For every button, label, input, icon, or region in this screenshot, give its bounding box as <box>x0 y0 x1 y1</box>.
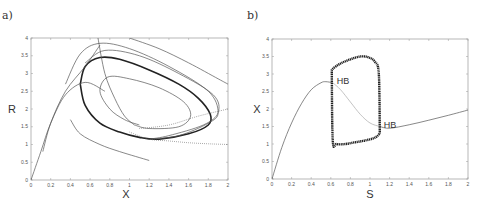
panel-b-axes: 00.20.40.60.811.21.41.61.8200.511.522.53… <box>262 36 470 187</box>
x-tick-label: 1.2 <box>146 182 153 188</box>
x-tick-label: 1.8 <box>445 181 452 187</box>
y-tick-label: 3 <box>266 71 269 77</box>
y-tick-label: 0.5 <box>21 159 28 165</box>
y-tick-label: 4 <box>266 36 269 42</box>
y-tick-label: 1 <box>25 141 28 147</box>
x-tick-label: 1.4 <box>406 181 413 187</box>
hb-annotation: HB <box>337 76 350 86</box>
x-tick-label: 0.4 <box>67 182 74 188</box>
plot-frame <box>272 39 468 179</box>
x-tick-label: 0.2 <box>288 181 295 187</box>
series-line <box>333 83 380 127</box>
y-tick-label: 1.5 <box>262 123 269 129</box>
hb-annotation: HB <box>384 120 397 130</box>
y-tick-label: 1.5 <box>21 123 28 129</box>
panel-a-xlabel: X <box>122 188 130 200</box>
panel-b-ylabel: X <box>253 103 261 115</box>
series-line <box>130 38 229 84</box>
x-tick-label: 0.8 <box>106 182 113 188</box>
y-tick-label: 3.5 <box>21 52 28 58</box>
panel-a-label: a) <box>2 9 13 22</box>
x-tick-label: 0.6 <box>87 182 94 188</box>
series-line <box>31 82 105 180</box>
x-tick-label: 0.4 <box>308 181 315 187</box>
y-tick-label: 0.5 <box>262 158 269 164</box>
y-tick-label: 0 <box>266 176 269 182</box>
series-line <box>80 57 211 139</box>
x-tick-label: 1.6 <box>425 181 432 187</box>
x-tick-label: 1 <box>369 181 372 187</box>
series-line <box>332 56 380 133</box>
y-tick-label: 3.5 <box>262 53 269 59</box>
y-tick-label: 2 <box>25 106 28 112</box>
x-tick-label: 0.2 <box>47 182 54 188</box>
y-tick-label: 4 <box>25 35 28 41</box>
series-line <box>139 109 228 129</box>
y-tick-label: 1 <box>266 141 269 147</box>
x-tick-label: 0.6 <box>327 181 334 187</box>
series-line <box>272 82 333 179</box>
panel-a-ylabel: R <box>8 103 16 115</box>
series-line <box>65 43 218 139</box>
plot-frame <box>31 38 228 180</box>
x-tick-label: 2 <box>227 182 230 188</box>
x-tick-label: 2 <box>467 181 470 187</box>
x-tick-label: 1.4 <box>165 182 172 188</box>
y-tick-label: 2 <box>266 106 269 112</box>
y-tick-label: 2.5 <box>21 88 28 94</box>
x-tick-label: 0 <box>271 181 274 187</box>
x-tick-label: 0.8 <box>347 181 354 187</box>
panel-b-label: b) <box>247 9 258 22</box>
panel-b-xlabel: S <box>366 188 373 200</box>
y-tick-label: 3 <box>25 70 28 76</box>
x-tick-label: 1.2 <box>386 181 393 187</box>
x-tick-label: 0 <box>30 182 33 188</box>
x-tick-label: 1.6 <box>185 182 192 188</box>
panel-a-axes: 00.20.40.60.811.21.41.61.8200.511.522.53… <box>21 35 230 188</box>
x-tick-label: 1.8 <box>205 182 212 188</box>
y-tick-label: 2.5 <box>262 88 269 94</box>
figure: a) b) 00.20.40.60.811.21.41.61.8200.511.… <box>0 0 483 208</box>
y-tick-label: 0 <box>25 177 28 183</box>
